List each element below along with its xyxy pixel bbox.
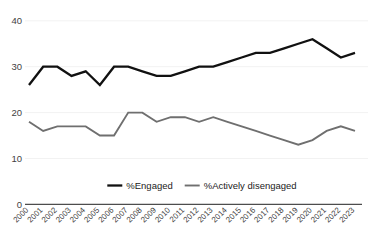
y-tick-label: 30 [11, 61, 22, 72]
legend-label: %Actively disengaged [204, 180, 297, 191]
line-chart: 010203040 200020012002200320042005200620… [0, 0, 375, 236]
legend-label: %Engaged [126, 180, 172, 191]
y-tick-label: 40 [11, 15, 22, 26]
chart-canvas: 010203040 200020012002200320042005200620… [0, 0, 375, 236]
y-tick-label: 20 [11, 107, 22, 118]
y-tick-label: 10 [11, 153, 22, 164]
